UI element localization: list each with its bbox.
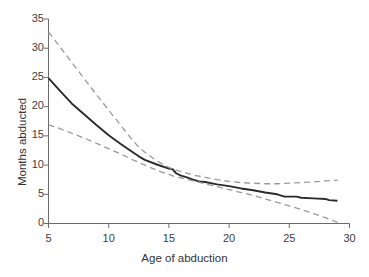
x-axis-title: Age of abduction: [0, 252, 369, 264]
y-axis-title: Months abducted: [16, 98, 28, 186]
x-tick-label: 25: [275, 232, 303, 244]
x-tick-label: 15: [155, 232, 183, 244]
x-tick-label: 10: [95, 232, 123, 244]
y-tick-label: 0: [20, 216, 44, 228]
x-axis-ticks: [49, 224, 350, 229]
x-tick-label: 20: [215, 232, 243, 244]
y-tick-label: 30: [20, 41, 44, 53]
x-tick-label: 5: [35, 232, 63, 244]
axis-lines: [44, 19, 350, 228]
figure-container: 05101520253035 51015202530 Age of abduct…: [0, 0, 369, 277]
series-line-1: [49, 32, 338, 184]
y-tick-label: 5: [20, 187, 44, 199]
y-tick-label: 25: [20, 70, 44, 82]
y-tick-label: 35: [20, 12, 44, 24]
series-line-2: [49, 125, 338, 223]
x-tick-label: 30: [336, 232, 364, 244]
y-axis-ticks: [44, 19, 49, 224]
data-series-group: [49, 32, 338, 222]
series-line-0: [49, 78, 338, 201]
